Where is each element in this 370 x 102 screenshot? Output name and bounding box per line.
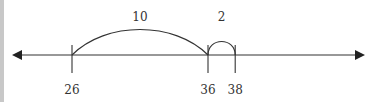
jump-label: 2 [218, 10, 226, 24]
jump-arc [208, 42, 235, 56]
tick-label: 36 [200, 83, 215, 97]
tick-label: 38 [228, 83, 243, 97]
jump-arc [72, 30, 208, 56]
jump-label: 10 [132, 10, 147, 24]
number-line-diagram: 263638 102 [0, 0, 370, 102]
tick-label: 26 [64, 83, 79, 97]
left-arrow-icon [12, 50, 22, 60]
right-arrow-icon [355, 50, 365, 60]
